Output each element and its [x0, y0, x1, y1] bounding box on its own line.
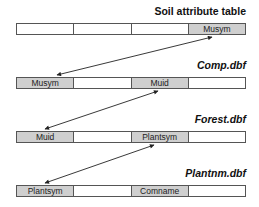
relationship-arrows: [0, 0, 259, 207]
plantsym-link-arrow: [45, 145, 154, 183]
musym-link-arrow: [57, 37, 212, 75]
muid-link-arrow: [45, 91, 158, 129]
